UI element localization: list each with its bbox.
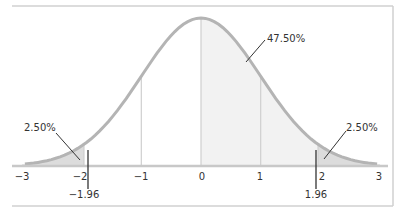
tick-label: 1 — [257, 171, 263, 182]
normal-distribution-chart: −3 −2 −1 0 1 2 3 −1.96 1.96 2.50% 47.50%… — [0, 0, 399, 211]
right-tail-area-label: 2.50% — [346, 122, 378, 133]
tick-label: −3 — [15, 171, 30, 182]
center-area-label: 47.50% — [267, 33, 305, 44]
crit-left-label: −1.96 — [69, 189, 100, 200]
center-leader — [246, 40, 265, 62]
left-tail-area-label: 2.50% — [24, 122, 56, 133]
tick-label: −2 — [73, 171, 88, 182]
crit-right-label: 1.96 — [305, 189, 327, 200]
tick-label: 2 — [319, 171, 325, 182]
tick-label: −1 — [134, 171, 149, 182]
tick-label: 0 — [199, 171, 205, 182]
tick-label: 3 — [376, 171, 382, 182]
